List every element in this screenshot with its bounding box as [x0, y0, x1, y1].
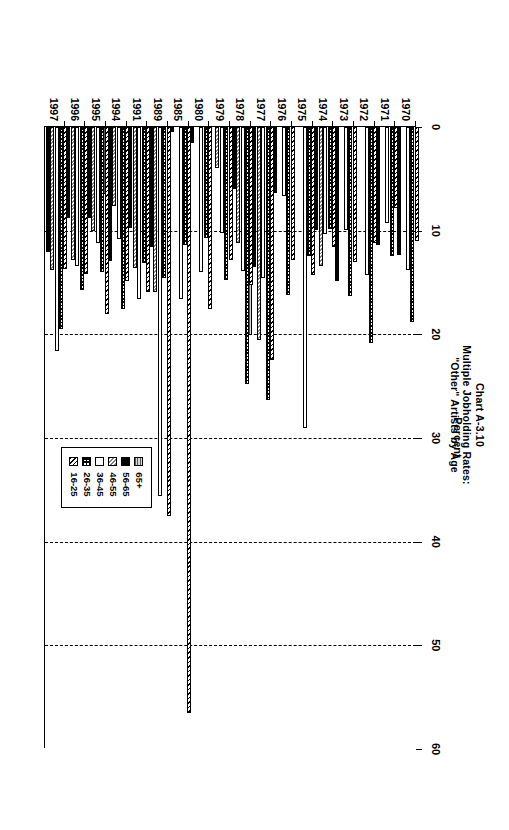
bar-1971-16-25: [394, 127, 398, 208]
bar-1995-46-55: [91, 127, 95, 231]
bar-1989-16-25: [166, 127, 170, 516]
value-tick-label: 10: [430, 225, 442, 237]
year-label: 1995: [89, 87, 101, 121]
year-label: 1974: [317, 87, 329, 121]
bar-1994-26-35: [121, 127, 125, 309]
bar-1989-36-45: [157, 127, 161, 496]
bar-1996-16-25: [84, 127, 88, 274]
legend-swatch-icon: [108, 457, 117, 466]
chart-title-block: Chart A-3.10 Multiple Jobholding Rates: …: [448, 30, 486, 800]
bar-1979-26-35: [224, 127, 228, 280]
year-label: 1972: [358, 87, 370, 121]
bar-1985-26-35: [183, 127, 187, 245]
bar-1976-36-45: [281, 127, 285, 196]
chart-figure: Chart A-3.10 Multiple Jobholding Rates: …: [20, 30, 490, 800]
value-tick-label: 0: [430, 124, 442, 130]
legend-item-36-45: 36-45: [95, 457, 105, 496]
legend-item-16-25: 16-25: [69, 457, 79, 496]
bar-1996-26-35: [79, 127, 83, 290]
year-label: 1994: [110, 87, 122, 121]
bar-1991-26-35: [141, 127, 145, 263]
bar-1979-36-45: [219, 127, 223, 233]
year-label: 1985: [172, 87, 184, 121]
legend-swatch-icon: [134, 457, 143, 466]
gridline: [45, 645, 416, 646]
bar-1975-26-35: [307, 127, 311, 256]
bar-1970-16-25: [414, 127, 418, 241]
bar-1976-16-25: [290, 127, 294, 260]
legend-label: 56-65: [121, 472, 131, 496]
legend-label: 36-45: [95, 472, 105, 496]
year-label: 1971: [379, 87, 391, 121]
year-label: 1976: [275, 87, 287, 121]
bar-1997-56-65: [45, 127, 49, 252]
bar-1989-26-35: [162, 127, 166, 278]
bar-1974-26-35: [327, 127, 331, 229]
year-label: 1978: [234, 87, 246, 121]
gridline: [45, 542, 416, 543]
value-tick-label: 50: [430, 639, 442, 651]
legend-swatch-icon: [121, 457, 130, 466]
bar-1979-16-25: [228, 127, 232, 260]
year-label: 1996: [69, 87, 81, 121]
bar-1977-16-25: [270, 127, 274, 360]
bar-1975-16-25: [311, 127, 315, 275]
bar-1973-26-35: [348, 127, 352, 296]
bar-1996-36-45: [75, 127, 79, 266]
bar-1995-36-45: [95, 127, 99, 243]
legend-item-46-55: 46-55: [108, 457, 118, 496]
bar-1973-16-25: [352, 127, 356, 262]
bar-1994-46-55: [112, 127, 116, 206]
bar-1991-46-55: [132, 127, 136, 268]
legend-label: 16-25: [69, 472, 79, 496]
bar-1977-36-45: [261, 127, 265, 278]
year-label: 1980: [193, 87, 205, 121]
bar-1985-16-25: [187, 127, 191, 713]
value-tick-label: 30: [430, 432, 442, 444]
chart-title-line2: Multiple Jobholding Rates:: [461, 30, 474, 800]
bar-1975-36-45: [302, 127, 306, 428]
gridline: [45, 334, 416, 335]
year-label: 1973: [337, 87, 349, 121]
bar-1995-26-35: [100, 127, 104, 272]
legend-item-56-65: 56-65: [121, 457, 131, 496]
year-label: 1997: [48, 87, 60, 121]
gridline: [45, 438, 416, 439]
legend-item-65+: 65+: [134, 457, 144, 496]
bar-1980-26-35: [203, 127, 207, 238]
value-tick-label: 60: [430, 743, 442, 755]
legend-label: 46-55: [108, 472, 118, 496]
bar-1991-36-45: [137, 127, 141, 299]
bar-1974-36-45: [323, 127, 327, 234]
chart-title-line3: "Other" Artists by Age: [448, 30, 461, 800]
bar-1997-46-55: [50, 127, 54, 270]
bar-1978-46-55: [236, 127, 240, 243]
year-label: 1977: [255, 87, 267, 121]
value-tick-label: 40: [430, 536, 442, 548]
bar-1978-26-35: [245, 127, 249, 384]
year-label: 1989: [151, 87, 163, 121]
bar-1991-16-25: [146, 127, 150, 292]
bar-1978-36-45: [240, 127, 244, 271]
chart-title-line1: Chart A-3.10: [473, 30, 486, 800]
bar-1971-26-35: [389, 127, 393, 256]
bar-1996-46-55: [70, 127, 74, 260]
legend-item-26-35: 26-35: [82, 457, 92, 496]
value-tick: [416, 645, 422, 646]
year-label: 1975: [296, 87, 308, 121]
bar-1976-26-35: [286, 127, 290, 295]
bar-1985-36-45: [178, 127, 182, 299]
bar-1972-26-35: [369, 127, 373, 343]
value-tick: [416, 438, 422, 439]
bar-1971-36-45: [385, 127, 389, 223]
bar-1997-36-45: [54, 127, 58, 351]
plot-area: Percent 01020304050601970197119721973197…: [44, 126, 416, 748]
bar-1970-36-45: [405, 127, 409, 270]
value-tick: [416, 749, 422, 750]
bar-1979-46-55: [215, 127, 219, 168]
value-tick: [416, 542, 422, 543]
bar-1994-36-45: [116, 127, 120, 239]
bar-1989-46-55: [153, 127, 157, 292]
legend-swatch-icon: [95, 457, 104, 466]
bar-1995-16-25: [104, 127, 108, 314]
